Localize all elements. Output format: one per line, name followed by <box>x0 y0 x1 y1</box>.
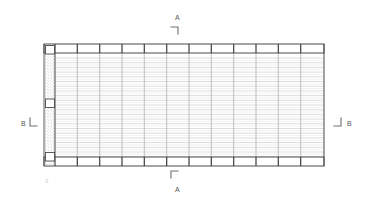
section-tick-b-left <box>30 118 37 126</box>
section-label-a-top: A <box>175 14 180 21</box>
wall-column-block-middle <box>46 99 55 108</box>
wall-column-block-bottom <box>46 153 55 162</box>
plan-tag-label: 3 <box>45 178 49 184</box>
section-tick-a-bottom <box>171 171 178 178</box>
left-masonry-wall <box>46 45 55 165</box>
section-label-b-right: B <box>347 120 352 127</box>
bottom-edge-beam <box>44 157 324 166</box>
section-tick-b-right <box>334 118 341 126</box>
section-label-b-left: B <box>21 120 26 127</box>
section-label-a-bottom: A <box>175 186 180 193</box>
joist-grid-secondary <box>55 60 324 154</box>
wall-column-block-top <box>46 46 55 55</box>
top-edge-beam <box>44 44 324 53</box>
framing-plan-drawing <box>0 0 372 207</box>
section-tick-a-top <box>171 27 178 34</box>
